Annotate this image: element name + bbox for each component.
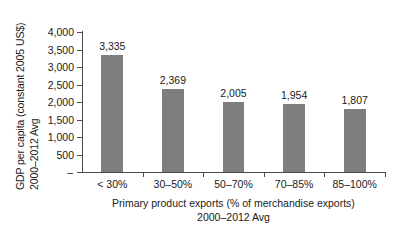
y-axis-tick-label: 3,000: [48, 61, 74, 73]
x-axis-line: [82, 172, 385, 173]
bar-slot: 1,807: [324, 32, 385, 172]
x-axis-category-label: 70–85%: [275, 178, 314, 190]
x-axis-category-label: < 30%: [97, 178, 127, 190]
bar-value-label: 2,369: [160, 74, 186, 86]
y-axis-tick-label: 1,500: [48, 114, 74, 126]
y-axis-tick-label: 1,000: [48, 131, 74, 143]
bar-value-label: 1,807: [342, 94, 368, 106]
bar-slot: 2,369: [143, 32, 204, 172]
bar: [344, 109, 366, 172]
y-axis-title-line-1: GDP per capita (constant 2005 US$): [14, 23, 27, 190]
bar: [162, 89, 184, 172]
y-axis-tick-label: 3,500: [48, 44, 74, 56]
plot-area: 4,0003,5003,0002,5002,0001,5001,000500– …: [82, 32, 385, 172]
y-axis-tick-label: 2,500: [48, 79, 74, 91]
x-axis-category-label: 30–50%: [154, 178, 193, 190]
y-axis-tick-mark: [77, 172, 82, 173]
bar-slot: 3,335: [82, 32, 143, 172]
x-axis-category-label: 50–70%: [214, 178, 253, 190]
x-axis-tick-mark: [203, 172, 204, 177]
bar-value-label: 2,005: [220, 87, 246, 99]
x-axis-category-label: 85–100%: [333, 178, 377, 190]
bar: [101, 55, 123, 172]
bar: [283, 104, 305, 172]
x-axis-tick-mark: [324, 172, 325, 177]
y-axis-title-line-2: 2000–2012 Avg: [28, 119, 41, 191]
y-axis-tick-label: 2,000: [48, 96, 74, 108]
x-axis-tick-mark: [264, 172, 265, 177]
y-axis-tick-label: 500: [56, 149, 74, 161]
bar-value-label: 1,954: [281, 89, 307, 101]
bar-slot: 1,954: [264, 32, 325, 172]
bar-series: 3,3352,3692,0051,9541,807: [82, 32, 385, 172]
bar-slot: 2,005: [203, 32, 264, 172]
x-axis-title-line-2: 2000–2012 Avg: [82, 210, 385, 224]
bar-chart-figure: GDP per capita (constant 2005 US$) 2000–…: [0, 0, 414, 235]
y-axis-tick-label: 4,000: [48, 26, 74, 38]
bar-value-label: 3,335: [99, 40, 125, 52]
x-axis-tick-mark: [385, 172, 386, 177]
x-axis-title-line-1: Primary product exports (% of merchandis…: [82, 196, 385, 210]
bar: [223, 102, 245, 172]
x-axis-tick-mark: [143, 172, 144, 177]
y-axis-tick-label: –: [67, 166, 73, 178]
